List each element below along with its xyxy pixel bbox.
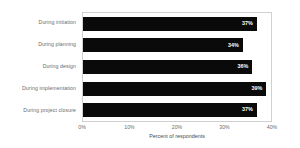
bar-initiation[interactable]: 37% <box>83 17 257 31</box>
bar-row: 36% <box>83 56 271 78</box>
category-label-initiation: During initiation <box>39 20 76 25</box>
category-axis-row: During initiation <box>4 12 80 34</box>
category-axis-row: During implementation <box>4 78 80 100</box>
x-axis-title: Percent of respondents <box>82 134 272 139</box>
plot-area: 37% 34% 36% 39% 37% <box>82 12 272 122</box>
category-label-implementation: During implementation <box>22 86 76 91</box>
bar-chart: During initiation During planning During… <box>0 0 300 148</box>
x-axis-tick-label: 20% <box>172 125 182 130</box>
x-axis-tick-label: 10% <box>124 125 134 130</box>
category-label-design: During design <box>43 64 76 69</box>
category-axis-row: During project closure <box>4 100 80 122</box>
bar-row: 37% <box>83 13 271 35</box>
category-label-planning: During planning <box>38 42 76 47</box>
bar-planning[interactable]: 34% <box>83 38 243 52</box>
x-axis-tick-label: 40% <box>267 125 277 130</box>
bar-implementation[interactable]: 39% <box>83 82 266 96</box>
bar-value-label: 37% <box>242 21 253 26</box>
x-axis-tick-label: 30% <box>219 125 229 130</box>
bar-value-label: 39% <box>252 86 263 91</box>
bar-project-closure[interactable]: 37% <box>83 103 257 117</box>
category-axis: During initiation During planning During… <box>4 12 80 122</box>
category-axis-row: During planning <box>4 34 80 56</box>
bar-design[interactable]: 36% <box>83 60 252 74</box>
category-label-project-closure: During project closure <box>23 108 76 113</box>
bar-row: 34% <box>83 35 271 57</box>
x-axis-tick-label: 0% <box>78 125 86 130</box>
bars-layer: 37% 34% 36% 39% 37% <box>83 13 271 121</box>
bar-row: 37% <box>83 99 271 121</box>
bar-row: 39% <box>83 78 271 100</box>
bar-value-label: 37% <box>242 107 253 112</box>
bar-value-label: 34% <box>228 43 239 48</box>
category-axis-row: During design <box>4 56 80 78</box>
bar-value-label: 36% <box>237 64 248 69</box>
